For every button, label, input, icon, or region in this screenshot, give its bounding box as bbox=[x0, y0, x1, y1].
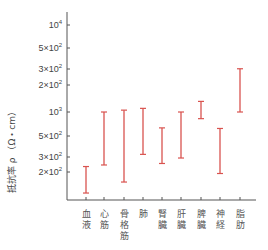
y-tick-label: 104 bbox=[49, 19, 63, 30]
x-tick-label: 臓 bbox=[158, 220, 167, 230]
x-tick-label: 神 bbox=[216, 208, 225, 219]
y-tick-label: 103 bbox=[49, 106, 63, 117]
x-tick-label: 脂 bbox=[236, 208, 245, 219]
range-bar bbox=[140, 108, 146, 154]
y-axis-label: 抵抗率 ρ （Ω・cm） bbox=[6, 107, 17, 193]
range-bar bbox=[198, 101, 204, 118]
x-tick-label: 臓 bbox=[177, 220, 186, 230]
x-tick-label: 肝 bbox=[177, 209, 186, 219]
range-bar bbox=[178, 112, 184, 158]
x-tick-label: 液 bbox=[82, 219, 91, 230]
y-tick-label: 3×102 bbox=[38, 151, 62, 162]
y-tick-label: 5×102 bbox=[38, 130, 62, 141]
range-bar bbox=[217, 128, 223, 173]
y-axis-ticks: 1045×1023×1022×1021035×1023×1022×102 bbox=[38, 19, 70, 177]
y-tick-label: 2×102 bbox=[38, 79, 62, 90]
axes bbox=[67, 12, 256, 200]
x-tick-label: 骨 bbox=[120, 209, 129, 219]
x-tick-label: 腎 bbox=[158, 209, 167, 219]
y-tick-label: 3×102 bbox=[38, 63, 62, 74]
resistivity-chart: 1045×1023×1022×1021035×1023×1022×102 血液心… bbox=[0, 0, 268, 250]
x-tick-label: 肺 bbox=[139, 209, 148, 219]
y-tick-label: 5×102 bbox=[38, 42, 62, 53]
x-tick-label: 筋 bbox=[100, 219, 109, 230]
range-bar bbox=[237, 69, 243, 112]
range-bar bbox=[159, 128, 165, 164]
x-tick-label: 心 bbox=[100, 209, 109, 219]
x-tick-label: 脾 bbox=[197, 208, 206, 219]
x-axis-ticks: 血液心筋骨格筋肺腎臓肝臓脾臓神経脂肪 bbox=[82, 197, 245, 241]
y-tick-label: 2×102 bbox=[38, 166, 62, 177]
x-tick-label: 経 bbox=[216, 219, 225, 230]
error-bars bbox=[83, 69, 243, 193]
range-bar bbox=[83, 167, 89, 193]
range-bar bbox=[121, 110, 127, 182]
x-tick-label: 血 bbox=[82, 208, 91, 219]
x-tick-label: 肪 bbox=[236, 219, 245, 230]
x-tick-label: 格 bbox=[120, 219, 129, 230]
x-tick-label: 臓 bbox=[197, 220, 206, 230]
range-bar bbox=[101, 112, 107, 165]
x-tick-label: 筋 bbox=[120, 230, 129, 241]
